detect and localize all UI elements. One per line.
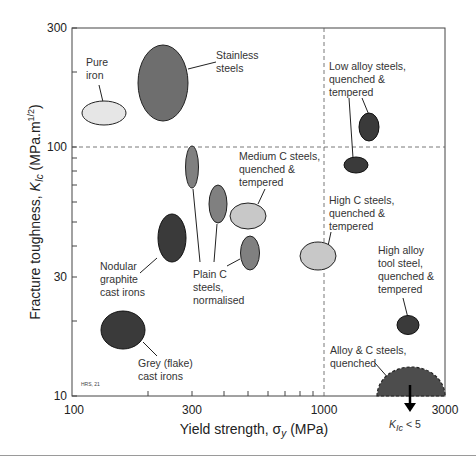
label-high-c: High C steels, quenched & tempered <box>329 194 397 232</box>
y-tick-300: 300 <box>47 21 67 35</box>
label-pure-iron: Pure iron <box>86 56 111 81</box>
region-plain-c-3 <box>241 236 260 270</box>
region-high-c-qt <box>300 242 336 270</box>
y-axis-ticks <box>72 28 77 396</box>
region-stainless-steels <box>138 45 188 121</box>
region-nodular-cast-irons <box>158 214 186 262</box>
label-medium-c: Medium C steels, quenched & tempered <box>239 150 323 188</box>
label-low-alloy: Low alloy steels, quenched & tempered <box>329 60 409 98</box>
region-pure-iron <box>82 101 126 125</box>
region-plain-c-2 <box>209 185 227 223</box>
x-tick-3000: 3000 <box>432 403 459 417</box>
y-tick-30: 30 <box>54 270 68 284</box>
region-grey-cast-irons <box>101 311 145 349</box>
x-tick-300: 300 <box>182 403 202 417</box>
x-axis-ticks <box>148 391 400 396</box>
y-axis-title: Fracture toughness, KIc (MPa.m1/2) <box>26 104 45 320</box>
page-divider <box>0 455 476 456</box>
x-tick-100: 100 <box>64 403 84 417</box>
region-plain-c-1 <box>186 146 199 188</box>
label-plain-c: Plain C steels, normalised <box>193 268 245 306</box>
kic-note: KIc < 5 <box>389 418 421 433</box>
label-high-alloy: High alloy tool steel, quenched & temper… <box>378 244 437 295</box>
figure-credit: HRS, 21 <box>81 381 100 387</box>
y-tick-10: 10 <box>54 389 68 403</box>
label-stainless-steels: Stainless steels <box>216 49 262 74</box>
region-low-alloy-qt-lower <box>344 157 368 173</box>
region-low-alloy-qt-upper <box>359 113 379 141</box>
region-high-alloy-tool-steel <box>397 316 419 335</box>
y-tick-100: 100 <box>47 140 67 154</box>
x-tick-1000: 1000 <box>311 403 338 417</box>
label-alloy-c-quenched: Alloy & C steels, quenched <box>330 344 409 369</box>
fracture-toughness-chart: 300 100 30 10 100 300 1000 3000 Yield st… <box>0 0 476 467</box>
label-nodular: Nodular graphite cast irons <box>100 260 145 298</box>
x-axis-title: Yield strength, σy (MPa) <box>180 421 329 439</box>
region-medium-c-qt <box>230 203 266 229</box>
label-grey-cast-irons: Grey (flake) cast irons <box>138 357 196 382</box>
